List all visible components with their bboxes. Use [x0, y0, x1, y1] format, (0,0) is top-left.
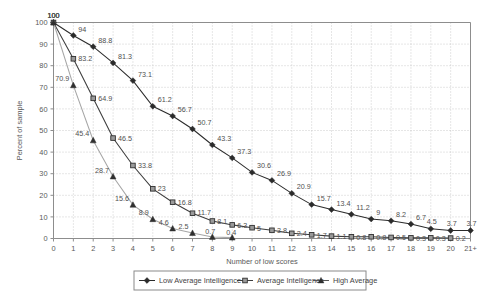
x-tick-label: 12 [288, 244, 296, 253]
x-tick-label: 6 [171, 244, 175, 253]
labels-average-intelligence: 10083.264.946.533.82316.811.78.16.353.82… [48, 11, 466, 244]
data-point-marker [349, 234, 354, 239]
data-point-label: 0.7 [205, 227, 215, 236]
data-series [51, 19, 474, 240]
data-point-marker [448, 236, 453, 241]
data-point-marker [111, 136, 116, 141]
x-tick-label: 2 [91, 244, 95, 253]
data-point-label: 50.7 [198, 118, 212, 127]
x-tick-label: 19 [427, 244, 435, 253]
y-tick-label: 60 [39, 105, 47, 114]
chart-container: 0102030405060708090100012345678910111213… [0, 0, 493, 302]
x-tick-label: 10 [248, 244, 256, 253]
data-point-label: 8.1 [217, 217, 227, 226]
data-labels: 1009488.881.373.161.256.750.743.337.330.… [48, 11, 477, 244]
data-point-label: 56.7 [178, 105, 192, 114]
data-point-marker [131, 163, 136, 168]
data-point-label: 9 [376, 208, 380, 217]
data-point-label: 0.8 [376, 233, 386, 242]
data-point-label: 73.1 [138, 70, 152, 79]
x-tick-label: 8 [210, 244, 214, 253]
x-tick-label: 21+ [464, 244, 477, 253]
data-point-label: 11.2 [356, 203, 369, 212]
x-tick-label: 16 [367, 244, 375, 253]
data-point-label: 64.9 [98, 94, 112, 103]
x-tick-label: 18 [407, 244, 415, 253]
data-point-label: 20.9 [297, 182, 311, 191]
data-point-marker [250, 225, 255, 230]
y-tick-label: 100 [35, 18, 47, 27]
data-point-marker [369, 234, 374, 239]
data-point-marker [170, 113, 176, 119]
data-point-label: 83.2 [78, 54, 92, 63]
data-point-label: 0.3 [436, 234, 446, 243]
data-point-marker [70, 82, 76, 88]
legend-label: High Average [333, 276, 377, 285]
data-point-label: 15.6 [115, 194, 129, 203]
data-point-label: 6.7 [416, 213, 426, 222]
data-point-marker [329, 207, 335, 213]
y-tick-label: 70 [39, 83, 47, 92]
data-point-marker [329, 234, 334, 239]
data-point-label: 46.5 [118, 134, 132, 143]
data-point-marker [409, 236, 414, 241]
data-point-marker [170, 200, 175, 205]
data-point-marker [230, 223, 235, 228]
x-tick-label: 7 [190, 244, 194, 253]
data-point-label: 2.4 [297, 229, 307, 238]
data-point-label: 26.9 [277, 169, 291, 178]
x-tick-label: 9 [230, 244, 234, 253]
data-point-label: 23 [158, 184, 166, 193]
gridlines [54, 23, 471, 239]
data-point-label: 1.1 [337, 232, 347, 241]
data-point-label: 3.8 [277, 226, 287, 235]
data-point-label: 11.7 [198, 208, 211, 217]
data-point-label: 88.8 [98, 36, 112, 45]
y-tick-label: 20 [39, 191, 47, 200]
x-tick-label: 3 [111, 244, 115, 253]
x-tick-label: 5 [151, 244, 155, 253]
data-point-label: 37.3 [237, 147, 251, 156]
data-point-label: 0.5 [396, 233, 406, 242]
y-tick-label: 90 [39, 40, 47, 49]
data-point-label: 100 [48, 11, 60, 20]
x-tick-label: 13 [308, 244, 316, 253]
chart-legend[interactable]: Low Average IntelligenceAverage Intellig… [134, 271, 377, 290]
data-point-label: 0.4 [226, 228, 236, 237]
x-tick-label: 1 [71, 244, 75, 253]
data-point-marker [389, 235, 394, 240]
x-tick-label: 0 [51, 244, 55, 253]
data-point-label: 3.7 [447, 219, 457, 228]
data-point-marker [110, 173, 116, 179]
data-point-label: 4.5 [427, 217, 437, 226]
data-point-marker [270, 228, 275, 233]
data-point-marker [428, 226, 434, 232]
x-tick-label: 4 [131, 244, 135, 253]
data-point-marker [150, 187, 155, 192]
data-point-marker [90, 137, 96, 143]
data-point-label: 4.6 [159, 218, 169, 227]
data-point-label: 33.8 [138, 161, 152, 170]
data-point-marker [70, 33, 76, 39]
data-point-marker [428, 236, 433, 241]
data-point-label: 94 [78, 25, 86, 34]
y-axis-title: Percent of sample [15, 101, 24, 161]
data-point-marker [170, 225, 176, 231]
data-point-marker [269, 177, 275, 183]
data-point-marker [289, 231, 294, 236]
labels-low-average-intelligence: 1009488.881.373.161.256.750.743.337.330.… [48, 11, 477, 228]
x-tick-label: 17 [387, 244, 395, 253]
data-point-marker [309, 202, 315, 208]
data-point-label: 0.3 [416, 234, 426, 243]
data-point-marker [388, 218, 394, 224]
y-tick-label: 40 [39, 148, 47, 157]
data-point-label: 0.2 [456, 234, 466, 243]
y-tick-label: 80 [39, 61, 47, 70]
data-point-label: 6.3 [237, 221, 247, 230]
data-point-label: 8.2 [396, 210, 406, 219]
data-point-label: 0.8 [356, 233, 366, 242]
y-tick-label: 0 [43, 234, 47, 243]
data-point-label: 5 [257, 224, 261, 233]
data-point-marker [71, 56, 76, 61]
data-point-label: 16.8 [178, 198, 192, 207]
